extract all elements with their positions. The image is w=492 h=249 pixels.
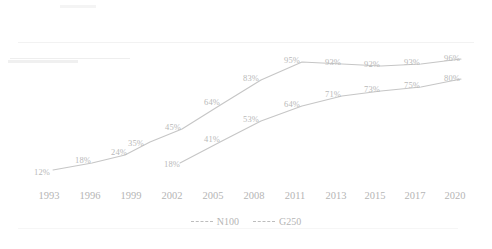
x-tick-label-1999: 1999 [121, 190, 142, 201]
data-label-n100-0: 12% [34, 167, 50, 177]
data-label-n100-6: 83% [243, 73, 259, 83]
data-label-n100-1: 18% [75, 155, 91, 165]
data-label-g250-7: 80% [444, 73, 460, 83]
x-tick-label-2011: 2011 [285, 190, 306, 201]
data-label-n100-10: 93% [404, 57, 420, 67]
x-tick-label-2008: 2008 [244, 190, 265, 201]
legend-item-n100[interactable]: N100 [191, 216, 239, 227]
data-label-n100-4: 45% [165, 122, 181, 132]
data-label-n100-8: 93% [325, 57, 341, 67]
data-label-g250-0: 18% [164, 159, 180, 169]
legend-label-g250: G250 [279, 216, 301, 227]
x-tick-label-2020: 2020 [445, 190, 466, 201]
legend-label-n100: N100 [217, 216, 239, 227]
data-label-n100-3: 35% [128, 138, 144, 148]
data-label-n100-11: 96% [444, 53, 460, 63]
x-tick-label-1993: 1993 [39, 190, 60, 201]
legend-dash-icon [253, 221, 275, 223]
legend-item-g250[interactable]: G250 [253, 216, 301, 227]
x-tick-label-2017: 2017 [405, 190, 426, 201]
data-label-g250-4: 71% [325, 89, 341, 99]
x-tick-label-2015: 2015 [365, 190, 386, 201]
line-chart-plot [0, 0, 492, 249]
x-tick-label-1996: 1996 [80, 190, 101, 201]
data-label-g250-2: 53% [243, 114, 259, 124]
chart-screenshot: 12%18%24%35%45%64%83%95%93%92%93%96% 18%… [0, 0, 492, 249]
data-label-g250-5: 73% [364, 84, 380, 94]
data-label-n100-2: 24% [111, 147, 127, 157]
x-tick-label-2005: 2005 [203, 190, 224, 201]
data-label-g250-3: 64% [284, 99, 300, 109]
x-tick-label-2013: 2013 [326, 190, 347, 201]
data-label-n100-7: 95% [284, 55, 300, 65]
chart-legend: N100 G250 [0, 216, 492, 227]
data-label-g250-6: 75% [404, 80, 420, 90]
data-label-n100-5: 64% [204, 97, 220, 107]
data-label-n100-9: 92% [364, 59, 380, 69]
data-label-g250-1: 41% [204, 134, 220, 144]
legend-dash-icon [191, 221, 213, 223]
x-tick-label-2002: 2002 [162, 190, 183, 201]
series-line-g250 [180, 79, 461, 163]
